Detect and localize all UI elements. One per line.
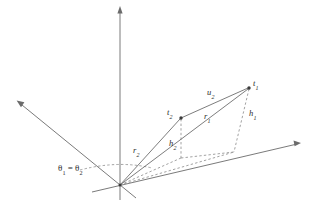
vertical-axis-arrow-icon [117,6,122,14]
label-t2: t2 [167,108,172,119]
label-h2: h2 [169,139,176,150]
right-axis-line [92,145,295,193]
label-theta1-base: θ [58,163,62,173]
height-lines-group [181,89,249,158]
figure-container: t1 t2 r1 r2 h1 h2 u2 θ1 = θ2 [0,0,310,224]
label-theta2-sub: 2 [79,169,82,176]
label-t2-sub: 2 [170,114,173,120]
label-h1: h1 [249,109,256,120]
label-r2-sub: 2 [137,152,140,158]
right-axis-arrow-icon [294,141,302,147]
label-r1-base: r [204,111,207,121]
label-r1-sub: 1 [208,118,211,124]
h1-height-dashed [234,89,249,152]
label-u2: u2 [207,88,214,99]
t1-point-marker [247,86,250,89]
label-r2: r2 [133,146,139,157]
label-theta-equality: θ1 = θ2 [58,164,82,175]
label-t1: t1 [253,79,258,90]
ground-parallel-dashed [181,152,234,158]
label-h1-sub: 1 [253,115,256,121]
label-theta-equals: = [65,163,75,173]
label-r2-base: r [133,145,136,155]
u2-vector-line [181,88,248,118]
label-t1-sub: 1 [256,85,259,91]
label-u2-sub: 2 [211,94,214,100]
r2-vector-line [120,119,180,185]
origin-point-marker [119,184,122,187]
label-r1: r1 [204,112,210,123]
label-theta1-sub: 1 [63,169,66,176]
label-h2-sub: 2 [173,145,176,151]
t2-point-marker [179,116,182,119]
vector-diagram-svg [0,0,310,224]
